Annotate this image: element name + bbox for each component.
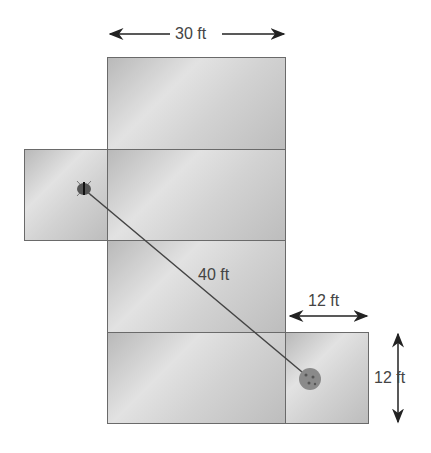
bug-icon <box>77 181 91 196</box>
top-width-label: 30 ft <box>173 25 208 43</box>
diagram-overlay <box>0 0 431 453</box>
flap-width-label: 12 ft <box>306 292 341 310</box>
flap-height-label: 12 ft <box>372 369 407 387</box>
cookie-icon <box>299 368 321 390</box>
path-length-label: 40 ft <box>196 266 231 284</box>
